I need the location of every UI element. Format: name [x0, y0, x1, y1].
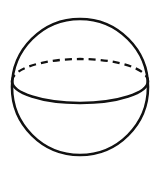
sphere-figure-container: Sphere with equator great circle Line dr… — [0, 0, 162, 171]
sphere-diagram-svg: Sphere with equator great circle Line dr… — [0, 0, 162, 171]
diagram-background — [0, 0, 162, 171]
